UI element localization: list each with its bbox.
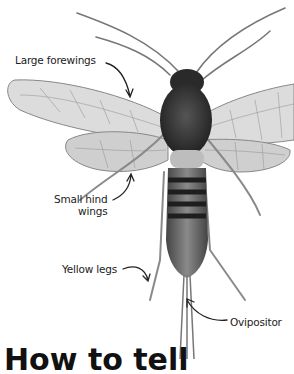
label-large-forewings: Large forewings [15, 54, 96, 66]
label-small-hind-wings: Small hind wings [54, 193, 107, 217]
antenna-left-inner [96, 37, 170, 75]
hindwing-left [66, 132, 168, 172]
antenna-right-inner [202, 31, 270, 80]
forewing-right [198, 84, 294, 144]
antenna-right-outer [196, 8, 285, 73]
label-small-hind-wings-line1: Small hind [54, 193, 107, 205]
waist [170, 150, 204, 168]
label-yellow-legs: Yellow legs [62, 263, 117, 275]
leg-hind-right [205, 178, 245, 300]
arrow-hindwings [113, 174, 134, 200]
thorax [160, 84, 212, 156]
leg-hind-left [150, 172, 164, 300]
label-ovipositor: Ovipositor [230, 316, 282, 328]
abdomen [166, 168, 208, 278]
insect-body [160, 69, 212, 359]
arrow-ovipositor [187, 299, 227, 320]
forewings [8, 80, 294, 144]
arrow-legs [123, 267, 150, 281]
arrow-forewings [106, 63, 133, 97]
section-heading: How to tell [4, 345, 189, 374]
forewing-left [8, 80, 168, 142]
label-small-hind-wings-line2: wings [54, 205, 107, 217]
antennae [77, 8, 285, 80]
